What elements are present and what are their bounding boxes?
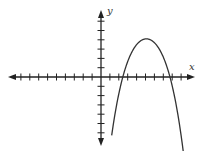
x-axis-right-arrow-icon: [187, 74, 195, 80]
y-axis-up-arrow-icon: [98, 10, 104, 18]
y-axis-label: y: [106, 5, 113, 16]
parabola-graph: x y: [0, 0, 203, 151]
y-axis-down-arrow-icon: [98, 138, 104, 146]
x-axis-left-arrow-icon: [8, 74, 16, 80]
y-axis: [98, 10, 105, 146]
x-axis-label: x: [189, 61, 195, 72]
parabola-curve: [112, 39, 185, 151]
